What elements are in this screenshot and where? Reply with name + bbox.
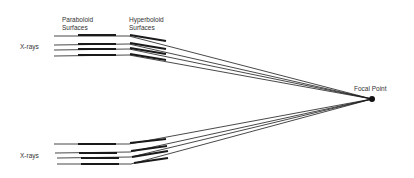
focal-point-marker — [369, 96, 375, 102]
diagram: Paraboloid Surfaces Hyperboloid Surfaces… — [0, 0, 414, 178]
hyperboloid-label-line1: Hyperboloid — [129, 16, 164, 24]
top-ray-group — [54, 35, 372, 99]
paraboloid-label-line2: Surfaces — [62, 24, 88, 31]
paraboloid-label-line1: Paraboloid — [62, 16, 93, 23]
xrays-top-label: X-rays — [20, 43, 40, 51]
bottom-ray-group — [54, 99, 372, 164]
xrays-bottom-label: X-rays — [20, 152, 40, 160]
focal-point-label: Focal Point — [354, 85, 387, 92]
hyperboloid-label-line2: Surfaces — [129, 24, 155, 31]
